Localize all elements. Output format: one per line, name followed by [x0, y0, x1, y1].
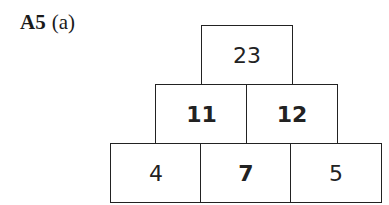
pyramid-top-cell: 23 — [201, 25, 293, 86]
question-part: (a) — [52, 10, 75, 34]
pyramid-bottom-right-cell: 5 — [290, 143, 382, 203]
pyramid-bottom-left-cell: 4 — [110, 143, 202, 203]
question-label: A5(a) — [20, 10, 75, 35]
pyramid-middle-right-cell: 12 — [246, 84, 338, 145]
pyramid-bottom-middle-cell: 7 — [200, 143, 292, 203]
question-number: A5 — [20, 10, 46, 34]
pyramid-middle-left-cell: 11 — [155, 84, 248, 145]
